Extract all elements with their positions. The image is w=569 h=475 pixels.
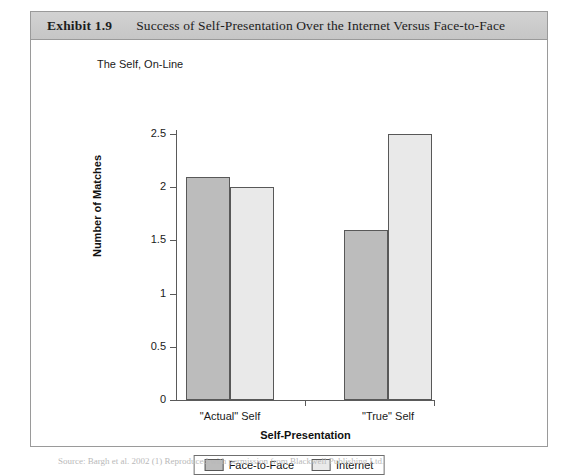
bar-internet-true	[388, 134, 432, 400]
x-axis-label-true-self: "True" Self	[328, 410, 448, 422]
y-axis-tick	[170, 134, 176, 135]
x-axis-tick	[305, 400, 306, 406]
bar-group	[344, 134, 432, 400]
y-axis-tick	[170, 294, 176, 295]
bar-face-to-face-true	[344, 230, 388, 400]
y-axis-tick-label: 1.5	[126, 233, 166, 245]
y-axis-tick-label: 0.5	[126, 340, 166, 352]
bar-group	[186, 134, 274, 400]
bar-internet-actual	[230, 187, 274, 400]
y-axis-tick-label: 2	[126, 180, 166, 192]
y-axis-tick-label: 0	[126, 393, 166, 405]
x-axis-label-actual-self: "Actual" Self	[170, 410, 290, 422]
y-axis-title: Number of Matches	[91, 136, 103, 276]
y-axis-tick-label: 1	[126, 287, 166, 299]
y-axis-tick-label: 2.5	[126, 127, 166, 139]
source-note: Source: Bargh et al. 2002 (1) Reproduced…	[58, 456, 558, 466]
exhibit-title: Success of Self-Presentation Over the In…	[112, 18, 505, 34]
x-axis-title: Self-Presentation	[176, 429, 435, 441]
y-axis-line	[176, 130, 177, 401]
exhibit-panel: Exhibit 1.9 Success of Self-Presentation…	[30, 11, 548, 447]
bar-face-to-face-actual	[186, 177, 230, 400]
y-axis-tick	[170, 400, 176, 401]
x-axis-tick	[434, 400, 435, 406]
y-axis-tick	[170, 240, 176, 241]
chart-plot-area: The Self, On-Line 00.511.522.5 Number of…	[31, 40, 547, 446]
y-axis-tick	[170, 187, 176, 188]
y-axis-tick	[170, 347, 176, 348]
exhibit-header: Exhibit 1.9 Success of Self-Presentation…	[31, 12, 547, 40]
chart-title: The Self, On-Line	[97, 58, 183, 70]
exhibit-number: Exhibit 1.9	[31, 18, 112, 34]
